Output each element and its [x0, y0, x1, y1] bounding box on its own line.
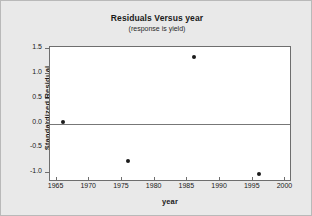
- y-axis-tick-label: 1.0: [32, 68, 42, 75]
- data-point: [257, 172, 261, 176]
- y-axis-tick-label: 0.5: [32, 93, 42, 100]
- x-axis-tick-mark: [154, 177, 155, 181]
- x-axis-tick-label: 1980: [146, 182, 162, 189]
- x-axis-tick-mark: [252, 177, 253, 181]
- residual-plot-figure: Residuals Versus year (response is yield…: [0, 0, 312, 216]
- x-axis-tick-mark: [284, 177, 285, 181]
- x-axis-tick-mark: [56, 177, 57, 181]
- x-axis-tick-label: 1975: [113, 182, 129, 189]
- x-axis-tick-label: 1970: [80, 182, 96, 189]
- data-point: [61, 120, 65, 124]
- page-title: Residuals Versus year: [1, 13, 312, 24]
- data-point: [192, 55, 196, 59]
- x-axis-tick-mark: [121, 177, 122, 181]
- x-axis-tick-mark: [88, 177, 89, 181]
- x-axis-tick-label: 1995: [244, 182, 260, 189]
- x-axis-tick-label: 2000: [277, 182, 293, 189]
- y-axis-tick-label: -1.0: [30, 167, 42, 174]
- x-axis-tick-mark: [186, 177, 187, 181]
- title-block: Residuals Versus year (response is yield…: [1, 13, 312, 34]
- y-axis-tick-label: -0.5: [30, 142, 42, 149]
- data-point: [126, 159, 130, 163]
- x-axis-label: year: [49, 197, 291, 206]
- plot-inner: [50, 47, 290, 180]
- x-axis-tick-label: 1985: [179, 182, 195, 189]
- x-axis-tick-mark: [219, 177, 220, 181]
- y-axis-tick-label: 1.5: [32, 43, 42, 50]
- zero-reference-line: [50, 124, 290, 125]
- x-axis-tick-label: 1990: [211, 182, 227, 189]
- x-axis-tick-label: 1965: [48, 182, 64, 189]
- plot-area: [49, 46, 291, 181]
- chart-subtitle: (response is yield): [1, 24, 312, 34]
- y-axis-tick-label: 0.0: [32, 118, 42, 125]
